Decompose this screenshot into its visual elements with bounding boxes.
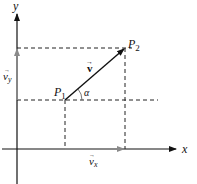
p2-label: P2: [127, 37, 140, 53]
vector-diagram: y x P1 P2 → v α → vy → vx: [0, 0, 197, 184]
angle-arc: [78, 89, 82, 100]
vector-v-label: v: [87, 62, 93, 74]
y-axis-label: y: [12, 0, 19, 13]
vy-label: vy: [3, 70, 12, 84]
x-axis-label: x: [181, 142, 188, 156]
vector-v-arrow: [65, 49, 124, 100]
p1-label: P1: [53, 85, 66, 101]
angle-alpha-label: α: [84, 87, 90, 98]
diagram-canvas: y x P1 P2 → v α → vy → vx: [0, 0, 197, 184]
vx-label: vx: [89, 155, 98, 169]
